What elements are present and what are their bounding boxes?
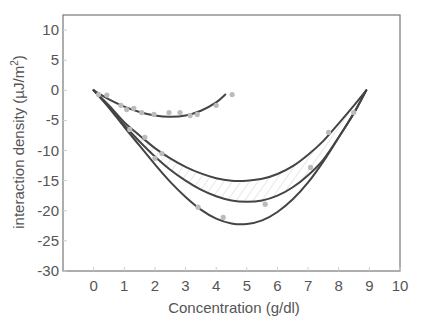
data-point — [127, 127, 132, 132]
data-point — [159, 151, 164, 156]
plot-border — [63, 15, 400, 271]
data-point — [214, 103, 219, 108]
data-point — [124, 107, 129, 112]
data-point — [118, 103, 123, 108]
y-tick-label: -30 — [37, 262, 59, 279]
data-point — [188, 113, 193, 118]
data-point — [196, 205, 201, 210]
data-point — [195, 112, 200, 117]
data-point — [131, 106, 136, 111]
data-point — [263, 202, 268, 207]
data-point — [96, 92, 101, 97]
y-tick-label: -10 — [37, 142, 59, 159]
x-tick-label: 10 — [392, 277, 409, 294]
x-tick-label: 7 — [304, 277, 312, 294]
x-tick-label: 5 — [243, 277, 251, 294]
y-axis-label: interaction density (µJ/m2) — [9, 55, 27, 228]
x-tick-label: 1 — [120, 277, 128, 294]
x-tick-label: 4 — [212, 277, 220, 294]
x-tick-label: 3 — [181, 277, 189, 294]
y-tick-label: 0 — [51, 81, 59, 98]
data-point — [142, 135, 147, 140]
data-point — [308, 165, 313, 170]
chart: 012345678910 1050-5-10-15-20-25-30 Conce… — [0, 0, 427, 334]
data-point — [230, 92, 235, 97]
y-tick-label: -15 — [37, 172, 59, 189]
plot-frame — [63, 15, 400, 271]
data-point — [221, 215, 226, 220]
x-tick-label: 9 — [365, 277, 373, 294]
y-tick-label: -25 — [37, 232, 59, 249]
data-point — [351, 110, 356, 115]
x-tick-label: 2 — [151, 277, 159, 294]
data-point — [326, 130, 331, 135]
data-point — [177, 110, 182, 115]
data-point — [139, 110, 144, 115]
x-tick-label: 6 — [273, 277, 281, 294]
y-tick-label: 10 — [42, 21, 59, 38]
x-axis-label: Concentration (g/dl) — [168, 299, 300, 316]
data-point — [151, 112, 156, 117]
data-point — [152, 156, 157, 161]
data-point — [104, 93, 109, 98]
y-axis-label-main: interaction density (µJ/m — [10, 66, 27, 229]
y-tick-label: 5 — [51, 51, 59, 68]
y-tick-label: -5 — [46, 111, 59, 128]
y-tick-label: -20 — [37, 202, 59, 219]
data-point — [166, 110, 171, 115]
x-tick-label: 0 — [89, 277, 97, 294]
y-axis-label-close: ) — [10, 55, 27, 60]
x-tick-label: 8 — [335, 277, 343, 294]
